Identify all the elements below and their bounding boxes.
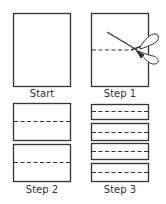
start-sheet	[14, 14, 71, 87]
step3-strip-1	[92, 105, 149, 120]
step3-strip-2	[92, 124, 149, 141]
step2-label: Step 2	[7, 184, 77, 196]
step3-strip-3	[92, 144, 149, 160]
paper-cutting-diagram	[0, 0, 166, 204]
step1-sheet	[92, 14, 149, 87]
start-label: Start	[7, 88, 77, 100]
step2-half-top	[14, 104, 71, 141]
step2-half-bottom	[14, 145, 71, 182]
step3-label: Step 3	[85, 184, 155, 196]
step1-label: Step 1	[85, 88, 155, 100]
step3-strip-4	[92, 164, 149, 182]
